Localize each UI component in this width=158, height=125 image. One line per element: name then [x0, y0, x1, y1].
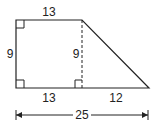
label-inner-height: 9 — [73, 47, 80, 61]
label-total-width: 25 — [75, 108, 89, 122]
arrowhead-left-icon — [16, 112, 22, 118]
label-left-height: 9 — [7, 47, 14, 61]
right-angle-mark-bottom-inner — [75, 80, 82, 88]
label-top: 13 — [42, 5, 56, 19]
right-angle-mark-top-left — [16, 20, 24, 28]
label-bottom-left: 13 — [42, 91, 56, 105]
right-angle-mark-bottom-left — [16, 80, 24, 88]
label-bottom-right: 12 — [109, 91, 123, 105]
arrowhead-right-icon — [142, 112, 148, 118]
trapezoid-diagram: 13 9 9 13 12 25 — [0, 0, 158, 125]
